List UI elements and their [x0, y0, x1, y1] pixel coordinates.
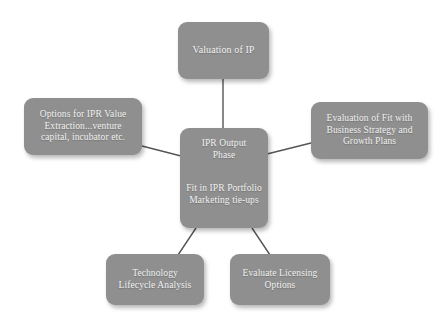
node-line: Extraction...venture [44, 121, 121, 133]
node-line: Options for IPR Value [40, 109, 127, 121]
node-line: Growth Plans [343, 136, 396, 148]
diagram-canvas: Valuation of IP Options for IPR Value Ex… [0, 0, 445, 325]
node-line: capital, incubator etc. [41, 132, 125, 144]
node-ipr-output-phase[interactable]: IPR Output Phase Fit in IPR Portfolio Ma… [180, 128, 268, 228]
node-line: Valuation of IP [192, 44, 254, 56]
node-evaluate-licensing-options[interactable]: Evaluate Licensing Options [230, 254, 330, 305]
node-line: Options [265, 280, 296, 292]
connector-center-to-technology [178, 228, 196, 255]
connector-center-to-evaluation-of-fit [267, 143, 311, 154]
connector-center-to-licensing [252, 228, 270, 255]
node-body-line: Marketing tie-ups [189, 195, 259, 207]
node-body-line: Fit in IPR Portfolio [186, 183, 262, 195]
node-evaluation-of-fit[interactable]: Evaluation of Fit with Business Strategy… [311, 102, 428, 159]
node-line: Lifecycle Analysis [119, 280, 192, 292]
node-heading-line: Phase [213, 150, 236, 162]
node-heading-line: IPR Output [202, 138, 247, 150]
node-line: Evaluation of Fit with [327, 113, 413, 125]
node-options-for-ipr-value-extraction[interactable]: Options for IPR Value Extraction...ventu… [24, 98, 142, 155]
node-line: Business Strategy and [326, 125, 412, 137]
connector-center-to-options [142, 146, 181, 156]
node-line: Evaluate Licensing [243, 268, 318, 280]
node-technology-lifecycle-analysis[interactable]: Technology Lifecycle Analysis [106, 254, 204, 305]
node-line: Technology [132, 268, 178, 280]
node-valuation-of-ip[interactable]: Valuation of IP [178, 22, 269, 79]
